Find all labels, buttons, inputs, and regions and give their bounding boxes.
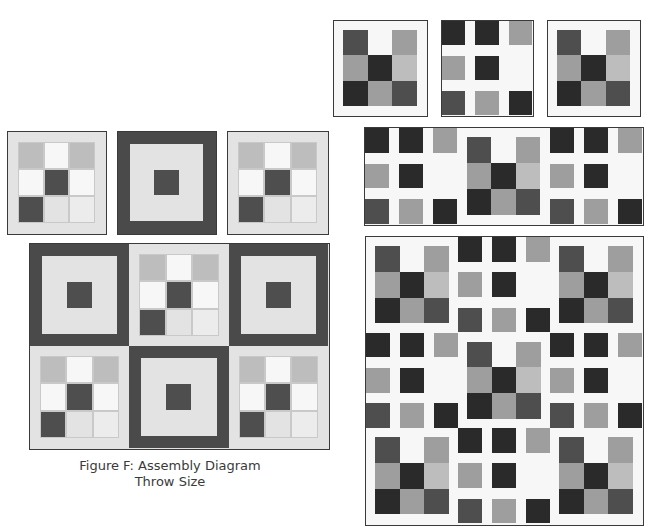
patch — [44, 196, 70, 223]
patch — [458, 308, 482, 333]
patch — [69, 142, 95, 169]
patch — [192, 281, 218, 308]
patch — [526, 272, 550, 297]
patch — [608, 437, 633, 463]
patch — [442, 91, 465, 115]
patch — [516, 342, 541, 368]
block-center-field — [141, 358, 216, 436]
block-center-field — [130, 144, 204, 222]
patch — [516, 137, 541, 163]
patch — [608, 489, 633, 515]
quilt-block-lattice — [458, 428, 550, 524]
patch — [491, 163, 516, 189]
patch — [366, 403, 390, 428]
patch — [66, 356, 92, 383]
patch — [399, 164, 423, 189]
patch — [40, 411, 66, 438]
patch — [559, 298, 584, 324]
patch — [366, 368, 390, 393]
patch — [526, 237, 550, 262]
patch — [424, 489, 449, 515]
patch — [424, 463, 449, 489]
quilt-block-nine-patch — [227, 131, 329, 235]
patch — [166, 281, 192, 308]
block-center-field — [241, 256, 316, 334]
patch — [343, 81, 368, 106]
patch — [608, 246, 633, 272]
quilt-block-lattice — [366, 333, 458, 429]
quilt-block-nine-patch — [129, 244, 228, 346]
quilt-block-nine-patch — [30, 346, 129, 448]
patch — [375, 246, 400, 272]
patch — [618, 403, 642, 428]
patch — [238, 142, 264, 169]
quilt-top — [365, 236, 644, 526]
caption-subtitle: Throw Size — [60, 474, 280, 490]
patch — [581, 55, 605, 80]
patch — [433, 128, 457, 153]
patch — [424, 298, 449, 324]
patch — [392, 55, 417, 80]
patch — [526, 308, 550, 333]
patch — [368, 55, 393, 80]
patch — [265, 383, 291, 410]
patch — [40, 383, 66, 410]
quilt-block-nine-patch — [7, 131, 107, 235]
patch — [584, 403, 608, 428]
patch — [467, 137, 492, 163]
patch — [584, 437, 609, 463]
quilt-block-framed-center — [30, 244, 129, 346]
patch — [557, 55, 581, 80]
patch — [550, 164, 574, 189]
quilt-block-nine-patch-dark — [550, 237, 642, 333]
patch — [584, 199, 608, 224]
quilt-block-lattice — [458, 237, 550, 333]
patch — [400, 298, 425, 324]
patch — [343, 55, 368, 80]
patch — [166, 254, 192, 281]
patch — [584, 272, 609, 298]
patch — [18, 169, 44, 196]
patch — [618, 128, 642, 153]
patch — [375, 272, 400, 298]
patch — [608, 463, 633, 489]
quilt-block-lattice — [550, 333, 642, 429]
patch — [265, 411, 291, 438]
patch — [291, 169, 317, 196]
patch — [18, 142, 44, 169]
patch — [400, 437, 425, 463]
patch — [368, 81, 393, 106]
patch — [584, 164, 608, 189]
patch — [492, 393, 517, 419]
patch — [584, 298, 609, 324]
quilt-block-nine-patch-dark — [366, 428, 458, 524]
patch — [618, 164, 642, 189]
quilt-block-lattice — [441, 20, 534, 117]
patch — [18, 196, 44, 223]
patch — [606, 55, 630, 80]
patch — [93, 411, 119, 438]
patch — [166, 309, 192, 336]
patch — [239, 411, 265, 438]
patch — [608, 272, 633, 298]
patch — [365, 128, 389, 153]
patch — [139, 281, 165, 308]
patch — [492, 367, 517, 393]
patch — [608, 298, 633, 324]
patch — [584, 333, 608, 358]
patch — [509, 91, 532, 115]
patch — [424, 246, 449, 272]
quilt-block-nine-patch-dark — [458, 333, 550, 429]
patch — [192, 254, 218, 281]
patch — [492, 428, 516, 453]
patch — [375, 437, 400, 463]
quilt-block-lattice — [550, 128, 642, 224]
patch — [343, 30, 368, 55]
patch — [584, 463, 609, 489]
patch — [264, 169, 290, 196]
patch — [467, 367, 492, 393]
patch — [139, 309, 165, 336]
patch — [400, 489, 425, 515]
patch — [550, 333, 574, 358]
center-square — [154, 170, 179, 196]
